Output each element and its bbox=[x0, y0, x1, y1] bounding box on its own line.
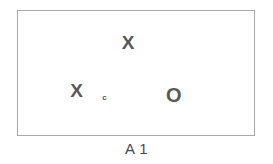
figure-container: XXcO A 1 bbox=[0, 0, 273, 164]
mark-x-top: X bbox=[122, 32, 135, 51]
mark-x-left: X bbox=[70, 80, 83, 99]
bounding-box: XXcO bbox=[17, 10, 255, 136]
figure-caption: A 1 bbox=[0, 140, 273, 157]
mark-tick-mid: c bbox=[102, 94, 106, 102]
mark-o-right: O bbox=[166, 85, 182, 105]
